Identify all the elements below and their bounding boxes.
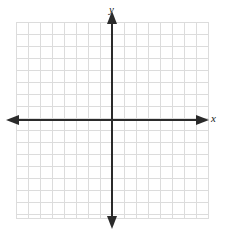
coordinate-plane-svg [0, 0, 225, 236]
x-axis-label: x [211, 113, 216, 124]
coordinate-plane-figure: y x [0, 0, 225, 236]
y-axis-label: y [109, 4, 114, 15]
x-axis-arrow-left-icon [6, 115, 19, 125]
y-axis-arrow-down-icon [107, 216, 117, 229]
